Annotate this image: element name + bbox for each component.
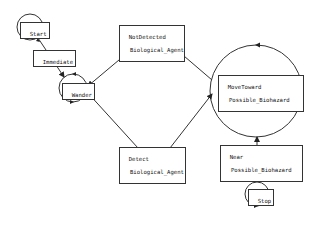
not-detected-transition-label[interactable]: NotDetected Biological_Agent <box>119 25 185 62</box>
move-toward-state-label[interactable]: MoveToward Possible_Biohazard <box>218 75 304 112</box>
wander-loop-arrow-top <box>72 72 76 76</box>
not-detected-label-line2: Biological_Agent <box>122 47 182 54</box>
near-label-line2: Possible_Biohazard <box>223 167 300 174</box>
move-toward-label-line2: Possible_Biohazard <box>221 97 301 104</box>
immediate-label-text: Immediate <box>43 59 73 65</box>
near-label-line1: Near <box>230 154 243 160</box>
not-detected-label-line1: NotDetected <box>129 34 166 40</box>
start-state-label-text: Start <box>30 31 47 37</box>
wander-state-label-text: Wander <box>72 92 92 98</box>
detect-label-line1: Detect <box>129 156 149 162</box>
move-toward-loop-arrow <box>255 43 260 48</box>
wander-state-label[interactable]: Wander <box>62 83 95 100</box>
detect-transition-label[interactable]: Detect Biological_Agent <box>119 147 186 184</box>
stop-state-label[interactable]: Stop <box>248 189 274 206</box>
move-toward-label-line1: MoveToward <box>228 84 262 90</box>
near-transition-label[interactable]: Near Possible_Biohazard <box>220 145 303 182</box>
detect-label-line2: Biological_Agent <box>122 169 183 176</box>
immediate-transition-label[interactable]: Immediate <box>33 50 76 67</box>
not-detected-transition-line[interactable] <box>88 77 214 86</box>
wander-loop-arrow-bottom <box>70 100 74 104</box>
start-state-label[interactable]: Start <box>20 22 50 39</box>
stop-state-label-text: Stop <box>258 198 271 204</box>
detect-transition-path[interactable] <box>87 92 212 148</box>
